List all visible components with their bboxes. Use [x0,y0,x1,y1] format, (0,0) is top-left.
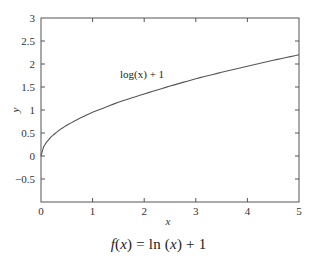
y-tick-label: 0.5 [21,127,35,139]
y-axis-ticks: −0.500.511.522.53 [15,12,299,185]
x-tick-label: 4 [245,205,251,217]
plot-border [41,18,299,202]
y-axis-label: y [9,107,21,113]
x-axis-label: x [165,215,171,227]
y-tick-label: −0.5 [15,173,35,185]
x-tick-label: 3 [193,205,199,217]
x-axis-ticks: 012345 [38,18,302,217]
y-tick-label: 1 [30,104,36,116]
x-tick-label: 5 [296,205,302,217]
caption-plus-one: ) + 1 [177,236,206,252]
data-series-line [41,55,299,156]
x-tick-label: 0 [38,205,44,217]
curve-annotation: log(x) + 1 [120,68,164,81]
y-tick-label: 0 [30,150,36,162]
caption-equals-ln: = ln ( [132,236,170,252]
caption-variable-2: x [170,236,177,252]
plot-frame [41,18,299,202]
y-tick-label: 2 [30,58,36,70]
figure-caption: f(x) = ln (x) + 1 [0,236,317,253]
x-tick-label: 2 [141,205,147,217]
y-tick-label: 3 [30,12,36,24]
x-tick-label: 1 [90,205,96,217]
y-tick-label: 2.5 [21,35,35,47]
y-tick-label: 1.5 [21,81,35,93]
chart: 012345 −0.500.511.522.53 log(x) + 1 x y [0,0,317,262]
